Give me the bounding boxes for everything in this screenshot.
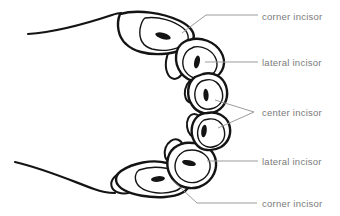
label-center-incisor: center incisor — [262, 107, 322, 118]
lower-jaw-outline — [15, 162, 115, 193]
teeth-line-art — [15, 12, 230, 197]
label-lateral-incisor-bottom: lateral incisor — [262, 156, 322, 167]
tooth-surface — [175, 150, 210, 183]
tooth-center-incisor-lower — [192, 113, 231, 151]
tooth-center-incisor-upper — [188, 73, 227, 113]
label-lateral-incisor-top: lateral incisor — [262, 57, 322, 68]
labels: corner incisor lateral incisor center in… — [262, 11, 323, 209]
diagram-canvas: corner incisor lateral incisor center in… — [0, 0, 340, 216]
leader-corner-incisor-top — [182, 15, 258, 33]
upper-jaw-outline — [28, 13, 121, 34]
label-corner-incisor-bottom: corner incisor — [262, 198, 323, 209]
incisor-diagram: corner incisor lateral incisor center in… — [0, 0, 340, 216]
label-corner-incisor-top: corner incisor — [262, 11, 323, 22]
tooth-surface — [195, 80, 223, 110]
